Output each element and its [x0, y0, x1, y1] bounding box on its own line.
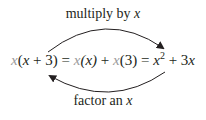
result-var1: x: [153, 52, 160, 68]
factor-arrow: [50, 72, 165, 92]
result-var2: x: [188, 52, 195, 68]
lhs-inner-rest: + 3): [29, 52, 57, 68]
factor-var: x: [126, 93, 132, 108]
multiply-label: multiply by x: [0, 6, 206, 22]
multiply-arrow: [48, 29, 163, 52]
equation: x(x + 3) = x(x) + x(3) = x2 + 3x: [0, 52, 206, 69]
equals-1: =: [58, 52, 74, 68]
factor-label: factor an x: [0, 93, 206, 109]
term2-paren: (3): [120, 52, 138, 68]
term1-paren: (x): [80, 52, 97, 68]
plus-1: +: [97, 52, 113, 68]
lhs-factor: x: [11, 52, 18, 68]
multiply-var: x: [134, 6, 140, 21]
equals-2: =: [137, 52, 153, 68]
factor-text: factor an: [73, 93, 126, 108]
result-rest: + 3: [165, 52, 188, 68]
multiply-text: multiply by: [66, 6, 134, 21]
term2-factor: x: [113, 52, 120, 68]
